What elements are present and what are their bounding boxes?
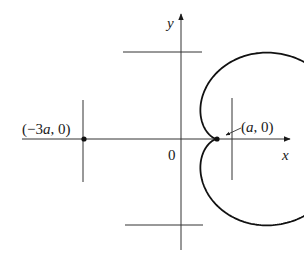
- x-axis-label: x: [281, 147, 289, 163]
- point-cusp: [214, 136, 219, 141]
- diagram-canvas: (−3a, 0) (a, 0) 0 x y: [0, 0, 304, 265]
- point-left: [81, 136, 86, 141]
- cardioid-diagram: (−3a, 0) (a, 0) 0 x y: [0, 0, 304, 265]
- origin-label: 0: [168, 147, 176, 163]
- y-axis-label: y: [165, 15, 174, 31]
- leader-arrow: [226, 128, 241, 135]
- left-point-label: (−3a, 0): [22, 121, 70, 138]
- cusp-point-label: (a, 0): [241, 119, 274, 136]
